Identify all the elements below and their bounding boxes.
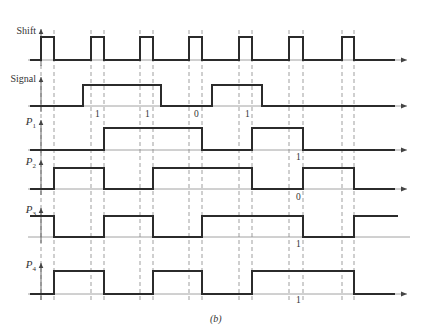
clock-edge-guides [41, 30, 354, 300]
arrow-up-icon [39, 29, 44, 34]
row-p3: P3 [25, 203, 410, 243]
row-p2: P2 [25, 155, 407, 195]
timing-diagram: ShiftSignalP1P2P3P4 11011011 (b) [0, 0, 431, 329]
signal-label: P2 [25, 155, 37, 170]
signal-label: Signal [10, 73, 36, 84]
waveform-shift [30, 37, 395, 60]
waveform-signal [30, 85, 395, 106]
row-p1: P1 [25, 115, 407, 156]
bit-value-label: 1 [145, 109, 150, 119]
figure-caption: (b) [210, 313, 222, 325]
bit-value-label: 1 [296, 239, 301, 249]
bit-value-label: 1 [245, 109, 250, 119]
arrow-right-icon [401, 148, 407, 153]
waveform-p3 [30, 216, 398, 237]
signal-label: P4 [25, 258, 37, 273]
signal-label: Shift [17, 25, 37, 36]
bit-value-label: 1 [296, 295, 301, 305]
arrow-right-icon [401, 187, 407, 192]
waveform-p2 [30, 168, 395, 189]
arrow-up-icon [39, 208, 44, 213]
bit-value-label: 0 [296, 192, 301, 202]
bit-labels: 11011011 [95, 109, 301, 305]
waveform-p4 [30, 271, 395, 294]
arrow-up-icon [39, 77, 44, 82]
arrow-up-icon [39, 263, 44, 268]
arrow-up-icon [39, 120, 44, 125]
arrow-right-icon [401, 58, 407, 63]
signal-label: P1 [25, 115, 37, 130]
bit-value-label: 1 [95, 109, 100, 119]
bit-value-label: 0 [194, 109, 199, 119]
signal-rows: ShiftSignalP1P2P3P4 [10, 25, 410, 300]
arrow-right-icon [401, 104, 407, 109]
arrow-up-icon [39, 160, 44, 165]
bit-value-label: 1 [296, 152, 301, 162]
row-signal: Signal [10, 73, 407, 112]
row-p4: P4 [25, 258, 407, 300]
waveform-p1 [30, 128, 395, 150]
row-shift: Shift [17, 25, 407, 66]
arrow-right-icon [401, 292, 407, 297]
